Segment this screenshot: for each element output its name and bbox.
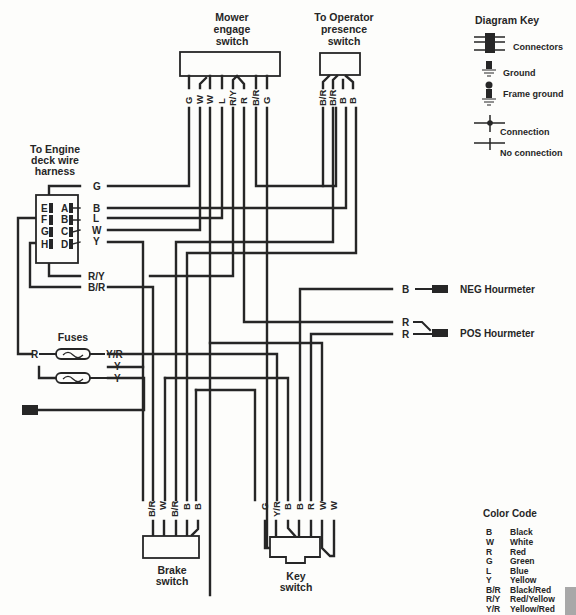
svg-text:E: E bbox=[41, 203, 48, 214]
svg-text:W: W bbox=[92, 225, 102, 236]
operator-switch-pin-labels: B/R B/R B B bbox=[317, 90, 358, 107]
key-switch-title-2: switch bbox=[280, 581, 313, 593]
frame-ground-plug bbox=[22, 405, 38, 415]
hourmeter: B NEG Hourmeter R R POS Hourmeter bbox=[402, 284, 535, 340]
svg-text:B: B bbox=[486, 527, 492, 537]
svg-text:C: C bbox=[61, 226, 68, 237]
svg-text:B/R: B/R bbox=[88, 282, 106, 293]
mower-switch-title-1: Mower bbox=[215, 11, 248, 23]
diagram-key-title: Diagram Key bbox=[475, 14, 539, 26]
mower-switch-title-3: switch bbox=[216, 35, 249, 47]
svg-text:Y: Y bbox=[486, 575, 492, 585]
color-code-codes: B W R G L Y B/R R/Y Y/R bbox=[486, 527, 501, 614]
svg-text:A: A bbox=[61, 203, 68, 214]
svg-text:G: G bbox=[261, 97, 272, 104]
svg-text:Connection: Connection bbox=[500, 127, 550, 137]
svg-text:L: L bbox=[216, 98, 227, 104]
svg-text:R: R bbox=[31, 349, 39, 360]
operator-switch-title-2: presence bbox=[321, 23, 367, 35]
svg-text:R/Y: R/Y bbox=[88, 271, 105, 282]
svg-text:W: W bbox=[157, 501, 168, 510]
svg-text:R: R bbox=[402, 329, 410, 340]
diagram-key: Diagram Key Connectors Ground Frame grou… bbox=[474, 14, 564, 158]
svg-text:B/R: B/R bbox=[169, 501, 180, 518]
svg-text:R: R bbox=[238, 97, 249, 104]
svg-text:D: D bbox=[61, 239, 68, 250]
svg-text:H: H bbox=[41, 239, 48, 250]
svg-text:R: R bbox=[402, 317, 410, 328]
svg-text:B: B bbox=[181, 503, 192, 510]
pos-hourmeter-label: POS Hourmeter bbox=[460, 328, 535, 339]
mower-switch-body bbox=[180, 52, 280, 76]
pos-hourmeter-connector bbox=[432, 329, 448, 337]
brake-switch-body bbox=[143, 536, 199, 558]
svg-text:White: White bbox=[510, 537, 533, 547]
neg-hourmeter-label: NEG Hourmeter bbox=[460, 284, 535, 295]
engine-deck-harness: To Engine deck wire harness E F G H A B … bbox=[30, 143, 106, 293]
svg-text:Y: Y bbox=[93, 236, 100, 247]
fuses: Fuses R Y/R Y Y bbox=[22, 331, 123, 415]
svg-text:G: G bbox=[93, 181, 101, 192]
svg-text:B/R: B/R bbox=[146, 501, 157, 518]
svg-text:Y/R: Y/R bbox=[486, 604, 500, 614]
fuse-2 bbox=[56, 373, 90, 383]
harness-wire-labels: G B L W Y R/Y B/R bbox=[88, 181, 106, 293]
svg-text:B: B bbox=[192, 503, 203, 510]
wiring-diagram: Mower engage switch G W W L R/Y R B/R G … bbox=[0, 0, 576, 615]
svg-text:B/R: B/R bbox=[250, 90, 261, 107]
svg-text:B: B bbox=[347, 97, 358, 104]
svg-text:Frame ground: Frame ground bbox=[503, 89, 564, 99]
svg-text:B: B bbox=[282, 503, 293, 510]
svg-text:Y/R: Y/R bbox=[106, 349, 123, 360]
fuse-1 bbox=[56, 349, 90, 359]
svg-text:B: B bbox=[61, 214, 68, 225]
key-switch: G Y/R B B R W W Key switch bbox=[259, 501, 339, 593]
ground-icon bbox=[482, 61, 496, 76]
svg-text:No connection: No connection bbox=[500, 148, 563, 158]
svg-text:Black: Black bbox=[510, 527, 533, 537]
color-code-names: Black White Red Green Blue Yellow Black/… bbox=[510, 527, 555, 614]
svg-text:W: W bbox=[204, 95, 215, 104]
svg-text:B: B bbox=[294, 503, 305, 510]
operator-switch-body bbox=[320, 53, 360, 75]
svg-text:Red/Yellow: Red/Yellow bbox=[510, 594, 555, 604]
svg-text:Yellow/Red: Yellow/Red bbox=[510, 604, 555, 614]
operator-switch-title-3: switch bbox=[328, 35, 361, 47]
key-pin-labels: G Y/R B B R W W bbox=[259, 501, 339, 517]
svg-text:W: W bbox=[317, 501, 328, 510]
mower-engage-switch: Mower engage switch G W W L R/Y R B/R G bbox=[180, 11, 280, 106]
color-code-legend: Color Code B W R G L Y B/R R/Y Y/R Black… bbox=[483, 508, 555, 614]
svg-text:Yellow: Yellow bbox=[510, 575, 537, 585]
svg-text:Y/R: Y/R bbox=[271, 501, 282, 517]
svg-text:Connectors: Connectors bbox=[513, 42, 563, 52]
connectors-icon bbox=[474, 33, 505, 53]
brake-switch: B/R W B/R B B Brake switch bbox=[143, 501, 203, 588]
mower-switch-title-2: engage bbox=[214, 23, 251, 35]
svg-text:G: G bbox=[183, 97, 194, 104]
svg-text:Ground: Ground bbox=[503, 68, 536, 78]
frame-ground-icon bbox=[482, 82, 496, 106]
brake-pin-labels: B/R W B/R B B bbox=[146, 501, 203, 518]
svg-text:Y: Y bbox=[114, 373, 121, 384]
mower-switch-pin-labels: G W W L R/Y R B/R G bbox=[183, 90, 272, 107]
svg-text:L: L bbox=[93, 213, 99, 224]
svg-text:Y: Y bbox=[114, 361, 121, 372]
svg-text:W: W bbox=[486, 537, 495, 547]
svg-text:B: B bbox=[402, 284, 409, 295]
svg-text:Green: Green bbox=[510, 556, 535, 566]
svg-text:R: R bbox=[305, 503, 316, 510]
operator-switch-title-1: To Operator bbox=[314, 11, 373, 23]
svg-text:W: W bbox=[328, 501, 339, 510]
svg-text:R/Y: R/Y bbox=[227, 90, 238, 107]
svg-text:F: F bbox=[41, 214, 47, 225]
brake-switch-title-2: switch bbox=[156, 575, 189, 587]
svg-text:G: G bbox=[259, 503, 270, 510]
svg-text:G: G bbox=[486, 556, 493, 566]
color-code-title: Color Code bbox=[483, 508, 537, 519]
key-switch-body bbox=[270, 537, 320, 563]
harness-title-3: harness bbox=[35, 165, 75, 177]
operator-presence-switch: To Operator presence switch B/R B/R B B bbox=[314, 11, 373, 106]
svg-text:G: G bbox=[41, 226, 49, 237]
fuses-title: Fuses bbox=[58, 331, 89, 343]
svg-text:R/Y: R/Y bbox=[486, 594, 501, 604]
